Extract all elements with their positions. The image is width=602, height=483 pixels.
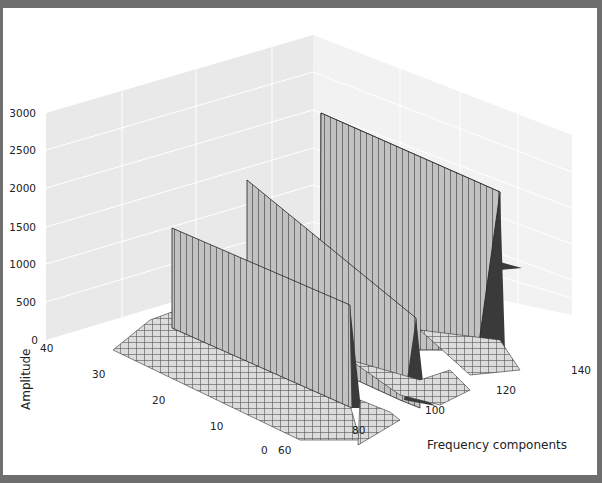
y-tick: 10: [210, 420, 223, 432]
surface-plot: 3000 2500 2000 1500 1000 500 0 40 30 20 …: [0, 0, 602, 483]
z-tick: 1000: [9, 258, 36, 270]
x-axis-label: Frequency components: [427, 438, 567, 452]
x-tick: 100: [425, 404, 445, 416]
x-tick: 60: [278, 444, 291, 456]
y-tick: 20: [152, 394, 165, 406]
z-tick: 0: [31, 334, 38, 346]
z-axis-label: Amplitude: [19, 349, 33, 411]
z-tick: 2000: [9, 182, 36, 194]
y-tick: 40: [40, 342, 53, 354]
z-axis-ticks: 3000 2500 2000 1500 1000 500 0: [9, 107, 38, 346]
z-tick: 500: [16, 296, 36, 308]
x-tick: 80: [352, 424, 365, 436]
z-tick: 1500: [9, 221, 36, 233]
y-tick: 0: [261, 444, 268, 456]
x-tick: 120: [496, 384, 516, 396]
z-tick: 2500: [9, 144, 36, 156]
z-tick: 3000: [9, 107, 36, 119]
y-tick: 30: [92, 368, 105, 380]
x-tick: 140: [571, 364, 591, 376]
